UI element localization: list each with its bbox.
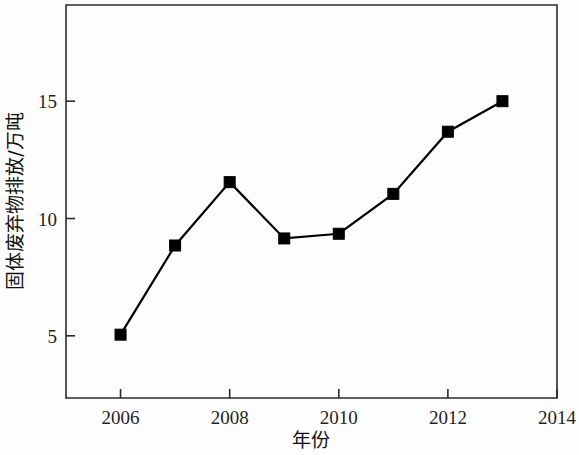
data-point-marker	[224, 177, 235, 188]
data-point-marker	[497, 96, 508, 107]
data-point-marker	[442, 126, 453, 137]
y-tick-label: 15	[38, 91, 57, 112]
y-axis-title: 固体废弃物排放/万吨	[4, 112, 26, 289]
data-point-marker	[279, 233, 290, 244]
data-point-marker	[388, 188, 399, 199]
data-point-marker	[333, 228, 344, 239]
x-tick-label: 2014	[538, 407, 577, 428]
y-tick-label: 10	[38, 209, 57, 230]
x-axis-title: 年份	[292, 429, 330, 451]
chart-figure: 15105 20062008201020122014 年份 固体废弃物排放/万吨	[0, 0, 579, 455]
x-tick-label: 2010	[320, 407, 358, 428]
data-point-marker	[115, 329, 126, 340]
x-tick-label: 2012	[429, 407, 467, 428]
y-tick-label: 5	[48, 326, 58, 347]
x-tick-label: 2008	[211, 407, 249, 428]
data-point-marker	[170, 240, 181, 251]
line-chart: 15105 20062008201020122014 年份 固体废弃物排放/万吨	[0, 0, 579, 455]
x-tick-label: 2006	[102, 407, 140, 428]
chart-background	[0, 0, 579, 455]
